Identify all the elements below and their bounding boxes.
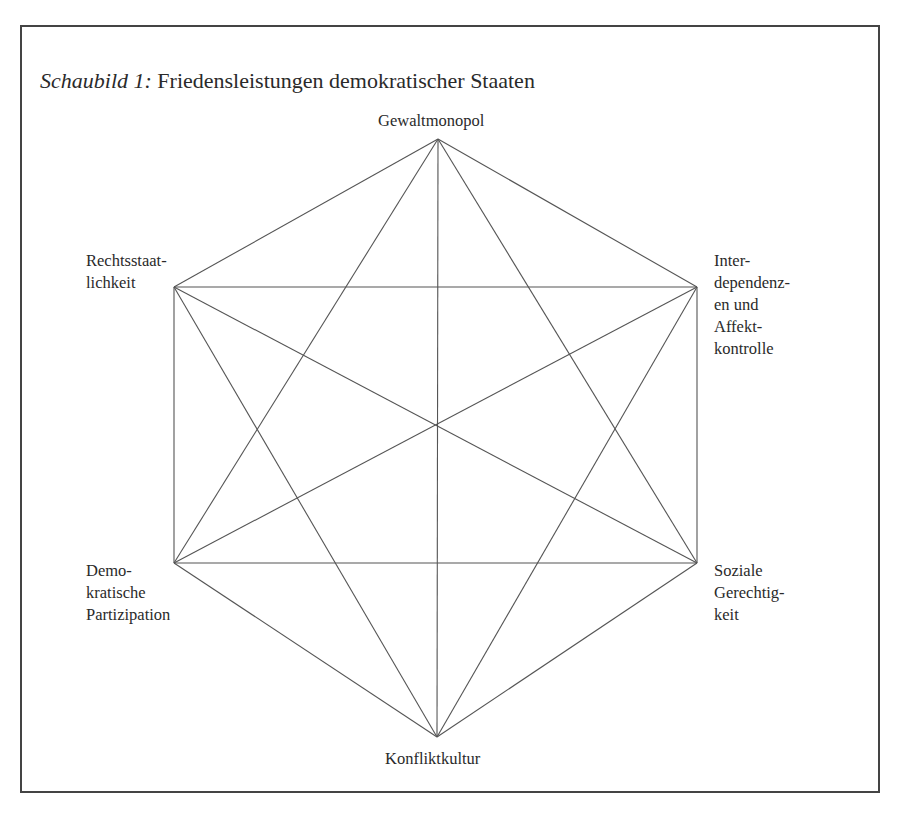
node-label-rechtsstaatlichkeit: Rechtsstaat- lichkeit bbox=[86, 250, 167, 294]
edge-konfliktkultur-demokratische-partizipation bbox=[174, 563, 437, 737]
edge-interdependenzen-konfliktkultur bbox=[437, 287, 697, 737]
graph-edges bbox=[174, 139, 697, 737]
node-label-soziale-gerechtigkeit: Soziale Gerechtig- keit bbox=[714, 560, 785, 626]
node-label-gewaltmonopol: Gewaltmonopol bbox=[378, 110, 484, 132]
edge-gewaltmonopol-rechtsstaatlichkeit bbox=[174, 139, 438, 287]
edge-soziale-gerechtigkeit-konfliktkultur bbox=[437, 563, 697, 737]
node-label-interdependenzen: Inter- dependenz- en und Affekt- kontrol… bbox=[714, 250, 790, 360]
node-label-demokratische-partizipation: Demo- kratische Partizipation bbox=[86, 560, 170, 626]
edge-konfliktkultur-rechtsstaatlichkeit bbox=[174, 287, 437, 737]
edge-gewaltmonopol-soziale-gerechtigkeit bbox=[438, 139, 697, 563]
edge-gewaltmonopol-konfliktkultur bbox=[437, 139, 438, 737]
node-label-konfliktkultur: Konfliktkultur bbox=[385, 748, 480, 770]
edge-gewaltmonopol-demokratische-partizipation bbox=[174, 139, 438, 563]
edge-gewaltmonopol-interdependenzen bbox=[438, 139, 697, 287]
